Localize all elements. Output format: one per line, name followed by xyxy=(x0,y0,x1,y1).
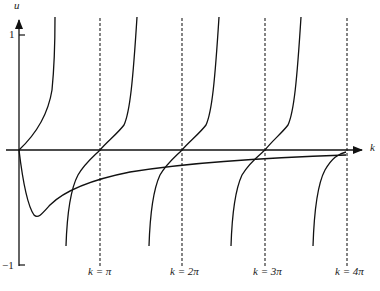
branch-3-curve xyxy=(231,17,301,246)
asymptote-label-2pi: k = 2π xyxy=(170,265,199,277)
asymptote-label-pi: k = π xyxy=(88,265,111,277)
branch-0-curve xyxy=(19,17,55,150)
chart-canvas xyxy=(0,0,380,291)
branch-1-curve xyxy=(66,17,137,246)
asymptote-lines xyxy=(100,18,347,268)
y-tick-label-m1: −1 xyxy=(2,259,14,271)
asymptote-label-4pi: k = 4π xyxy=(335,265,364,277)
y-axis-label: u xyxy=(14,0,20,11)
x-axis-label: k xyxy=(370,141,375,153)
asymptote-label-3pi: k = 3π xyxy=(253,265,282,277)
y-tick-label-1: 1 xyxy=(9,28,15,40)
branch-4-curve xyxy=(313,152,346,246)
branch-2-curve xyxy=(149,17,219,246)
